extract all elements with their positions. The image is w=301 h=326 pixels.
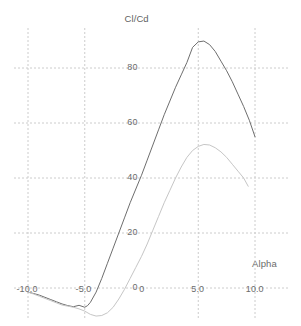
x-tick-label: -10.0 [17, 284, 38, 294]
x-tick-label: 5.0 [191, 284, 204, 294]
grid-horizontal-lines [14, 68, 290, 288]
y-tick-label: 80 [120, 62, 138, 72]
y-tick-label: 20 [120, 227, 138, 237]
chart-title: Cl/Cd [125, 13, 149, 24]
x-tick-label: 0 [139, 284, 144, 294]
series-line-2 [28, 144, 248, 316]
x-tick-label: -5.0 [76, 284, 92, 294]
y-tick-label: 60 [120, 117, 138, 127]
data-series-group [28, 41, 255, 316]
x-axis-title: Alpha [252, 258, 277, 269]
x-tick-label: 10.0 [246, 284, 264, 294]
chart-plot-svg [0, 0, 301, 326]
series-line-1 [28, 41, 255, 307]
y-tick-label: 40 [120, 172, 138, 182]
y-tick-label: 0 [120, 282, 138, 292]
grid-vertical-lines [28, 28, 255, 318]
chart-container: Cl/Cd Alpha -10.0-5.005.010.0 020406080 [0, 0, 301, 326]
